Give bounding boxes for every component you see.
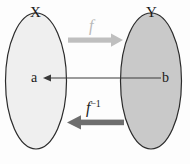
function-inverse-diagram: X Y a b f f−1 — [0, 0, 190, 164]
set-x-label: X — [30, 5, 41, 20]
inverse-arrow-f-inverse — [67, 115, 124, 129]
set-y-ellipse — [121, 13, 182, 149]
function-f-label: f — [89, 18, 93, 34]
set-y-label: Y — [146, 5, 157, 20]
element-a-label: a — [31, 71, 37, 85]
element-b-label: b — [162, 71, 169, 85]
function-f-inverse-superscript: −1 — [90, 98, 100, 109]
function-f-inverse-label: f−1 — [86, 99, 101, 116]
forward-arrow-f — [68, 34, 123, 47]
